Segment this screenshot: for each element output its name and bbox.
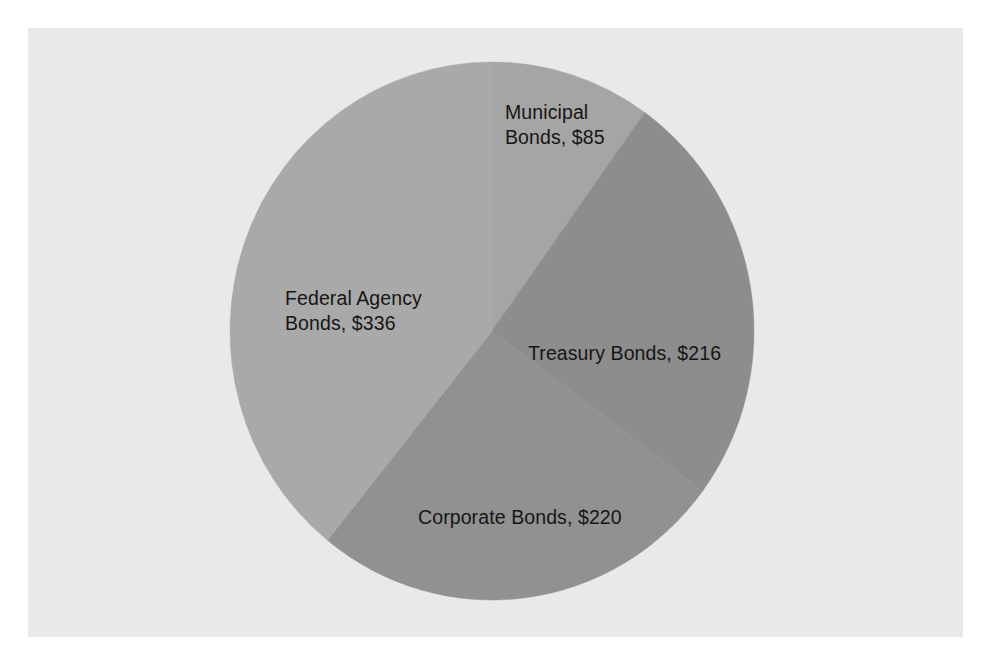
pie-svg <box>28 28 963 637</box>
pie-chart: Municipal Bonds, $85 Treasury Bonds, $21… <box>28 28 963 637</box>
chart-figure: Municipal Bonds, $85 Treasury Bonds, $21… <box>0 0 991 665</box>
pie-slice-group <box>230 62 754 600</box>
plot-area: Municipal Bonds, $85 Treasury Bonds, $21… <box>28 28 963 637</box>
